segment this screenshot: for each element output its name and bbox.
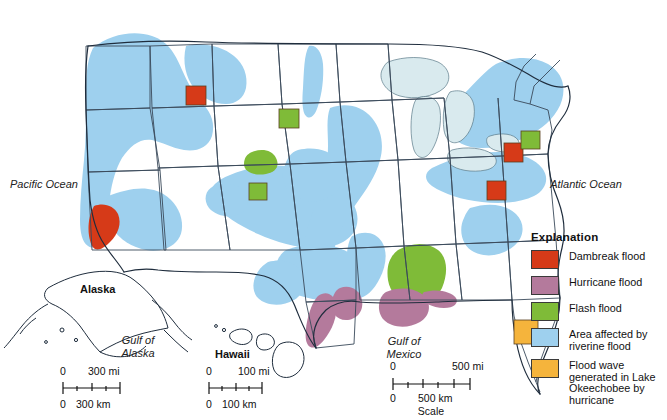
gulf-of-alaska-label-line1: Gulf of	[122, 334, 155, 346]
alaska-inset-label: Alaska	[80, 283, 116, 295]
main-scale-bar: 0 500 mi 0 500 km Scale	[390, 360, 484, 417]
alaska-scale-mi-max: 300 mi	[88, 365, 120, 377]
legend-label-riverine-flood: Area affected by riverine flood	[569, 328, 661, 352]
main-scale-mi-zero: 0	[390, 360, 396, 372]
hurricane-area-upper-texas-coast	[332, 287, 363, 320]
legend-swatch-hurricane-flood	[531, 276, 559, 295]
hawaii-scale-km-max: 100 km	[222, 398, 257, 410]
legend-label-okeechobee-flood: Flood wave generated in Lake Okeechobee …	[569, 359, 661, 406]
legend-rows: Dambreak floodHurricane floodFlash flood…	[523, 250, 667, 407]
hurricane-flood-areas	[306, 287, 457, 348]
legend-item-hurricane-flood[interactable]: Hurricane flood	[523, 276, 667, 295]
alaska-scale-km-zero: 0	[60, 398, 66, 410]
hawaii-scale-km-zero: 0	[206, 398, 212, 410]
legend-swatch-riverine-flood	[531, 328, 559, 347]
dambreak-marker-idaho[interactable]	[186, 86, 206, 105]
gulf-of-mexico-label-line2: Mexico	[387, 348, 422, 360]
alaska-scale-bar: 0 300 mi 0 300 km	[60, 365, 120, 410]
riverine-area-iowa	[283, 148, 343, 201]
hawaii-scale-bar: 0 100 mi 0 100 km	[206, 365, 270, 410]
legend-swatch-okeechobee-flood	[531, 359, 559, 378]
alaska-scale-km-max: 300 km	[76, 398, 111, 410]
dambreak-area-southern-california	[89, 204, 120, 249]
flash-area-black-hills	[244, 150, 278, 175]
hawaii-inset-label: Hawaii	[215, 348, 250, 360]
legend-label-hurricane-flood: Hurricane flood	[569, 276, 642, 289]
legend-item-riverine-flood[interactable]: Area affected by riverine flood	[523, 328, 667, 352]
legend-explanation: Explanation Dambreak floodHurricane floo…	[523, 231, 667, 414]
riverine-area-red-river	[302, 46, 323, 118]
gulf-of-mexico-label-line1: Gulf of	[388, 335, 421, 347]
main-scale-km-max: 500 km	[418, 392, 453, 404]
lake-erie	[448, 148, 497, 171]
riverine-area-central-texas	[253, 260, 304, 304]
legend-item-okeechobee-flood[interactable]: Flood wave generated in Lake Okeechobee …	[523, 359, 667, 406]
flash-marker-colorado[interactable]	[249, 183, 267, 200]
dambreak-flood-areas	[89, 204, 120, 249]
legend-swatch-flash-flood	[531, 302, 559, 321]
dambreak-marker-westvirginia[interactable]	[487, 181, 506, 200]
hawaii-scale-mi-max: 100 mi	[238, 365, 270, 377]
riverine-flood-areas	[80, 33, 563, 304]
main-scale-mi-max: 500 mi	[452, 360, 484, 372]
main-scale-km-zero: 0	[390, 392, 396, 404]
legend-label-dambreak-flood: Dambreak flood	[569, 250, 645, 263]
legend-title: Explanation	[531, 231, 667, 243]
dambreak-marker-pennsylvania[interactable]	[504, 143, 523, 162]
atlantic-ocean-label: Atlantic Ocean	[549, 178, 622, 190]
hurricane-area-louisiana	[379, 289, 429, 327]
flash-marker-newjersey[interactable]	[521, 131, 540, 149]
flood-hazard-map: Pacific Ocean Atlantic Ocean Gulf of Mex…	[0, 0, 667, 420]
legend-item-dambreak-flood[interactable]: Dambreak flood	[523, 250, 667, 269]
main-scale-caption: Scale	[418, 405, 444, 417]
riverine-area-southeast	[461, 205, 522, 256]
alaska-scale-mi-zero: 0	[60, 365, 66, 377]
lake-michigan	[411, 97, 441, 158]
legend-label-flash-flood: Flash flood	[569, 302, 622, 315]
gulf-of-alaska-label-line2: Alaska	[120, 347, 154, 359]
pacific-ocean-label: Pacific Ocean	[10, 178, 78, 190]
legend-swatch-dambreak-flood	[531, 250, 559, 269]
hawaii-scale-mi-zero: 0	[206, 365, 212, 377]
flash-marker-south-dakota[interactable]	[279, 109, 299, 128]
legend-item-flash-flood[interactable]: Flash flood	[523, 302, 667, 321]
